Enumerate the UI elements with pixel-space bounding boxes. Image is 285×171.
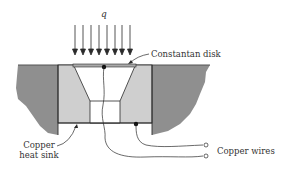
heat-flux-arrows [73, 25, 133, 55]
copper-heat-sink-label-line2: heat sink [19, 150, 59, 160]
constantan-leader [130, 54, 149, 63]
heat-sink-leader-arrowhead [74, 124, 78, 128]
wire-terminal-1 [204, 143, 208, 147]
heat-sink-leader [57, 126, 76, 146]
copper-wires-label: Copper wires [217, 146, 275, 156]
left-body [16, 65, 58, 135]
constantan-disk-label: Constantan disk [151, 49, 222, 59]
heat-flux-gauge-diagram: q Constantan disk Copper heat sink Coppe… [0, 0, 285, 171]
heat-flux-label: q [101, 9, 107, 19]
wire-terminal-2 [204, 154, 208, 158]
right-body [152, 65, 210, 135]
copper-heat-sink-label-line1: Copper [23, 140, 56, 150]
